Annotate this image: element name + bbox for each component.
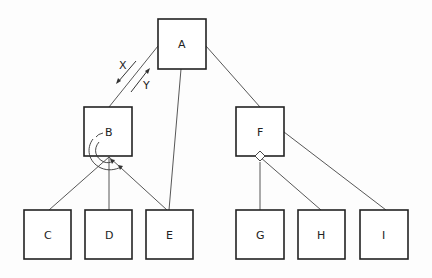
svg-text:H: H <box>317 229 325 242</box>
arrow-label-x: X <box>119 59 127 72</box>
node-h[interactable]: H <box>298 210 345 259</box>
node-g[interactable]: G <box>236 210 284 259</box>
edge-f-h <box>260 157 321 210</box>
node-c[interactable]: C <box>24 210 71 259</box>
svg-text:E: E <box>166 229 173 242</box>
edge-a-f <box>206 46 260 107</box>
svg-text:F: F <box>257 126 263 139</box>
svg-text:C: C <box>44 229 52 242</box>
node-i[interactable]: I <box>360 210 408 259</box>
arrow-label-y: Y <box>142 79 150 92</box>
svg-text:A: A <box>178 38 186 51</box>
node-e[interactable]: E <box>146 210 193 259</box>
svg-text:I: I <box>382 229 385 242</box>
diagram-canvas: X Y A B F C D E G H I <box>0 0 432 278</box>
node-f[interactable]: F <box>236 107 284 156</box>
edge-b-c <box>49 157 109 210</box>
node-b[interactable]: B <box>84 107 132 156</box>
svg-text:D: D <box>105 229 113 242</box>
node-d[interactable]: D <box>85 210 132 259</box>
svg-text:G: G <box>256 229 265 242</box>
svg-text:B: B <box>105 126 113 139</box>
edge-a-e <box>169 69 181 210</box>
edge-a-b <box>109 46 158 107</box>
edge-b-e <box>109 157 167 210</box>
edge-f-i <box>284 132 386 210</box>
node-a[interactable]: A <box>158 19 206 69</box>
tree-diagram: X Y A B F C D E G H I <box>0 0 432 278</box>
